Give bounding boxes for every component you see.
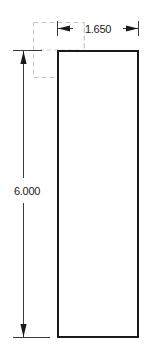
height-arrow-top [20,51,26,64]
width-arrow-right [126,25,138,31]
part-outline [58,51,138,337]
height-dimension-label: 6.000 [14,185,40,197]
technical-drawing-canvas: 1.650 6.000 [0,0,146,355]
height-arrow-bottom [20,324,26,337]
width-dimension: 1.650 [58,21,139,36]
width-arrow-left [58,25,70,31]
width-dimension-label: 1.650 [85,23,111,35]
height-dimension: 6.000 [13,51,50,338]
